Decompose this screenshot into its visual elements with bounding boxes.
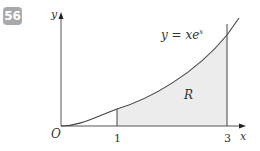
y-axis-arrow-icon <box>59 12 64 19</box>
x-axis-arrow-icon <box>239 124 246 129</box>
origin-label: O <box>51 127 61 141</box>
x-tick-1: 1 <box>114 132 121 145</box>
region-r-shading <box>117 35 227 126</box>
graph: y x O 1 3 R y = xex <box>0 0 260 151</box>
y-axis-label: y <box>50 8 58 21</box>
region-label: R <box>183 88 193 102</box>
x-axis-label: x <box>240 130 247 143</box>
x-tick-3: 3 <box>224 132 231 145</box>
curve-equation-label: y = xex <box>160 28 203 42</box>
